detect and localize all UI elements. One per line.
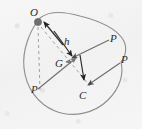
label-C: C — [79, 90, 86, 101]
label-O: O — [30, 7, 38, 18]
arrowhead-at-G — [66, 61, 74, 62]
label-P-lower-right: P — [121, 54, 128, 65]
pressure-force-line-upper-right — [72, 40, 109, 58]
pivot-point-marker-O — [34, 18, 41, 25]
label-P-lower-left: P — [31, 84, 38, 95]
label-P-upper-right: P — [110, 33, 117, 44]
label-h: h — [64, 36, 70, 47]
label-G: G — [55, 58, 63, 69]
dashed-vertical-line — [38, 27, 40, 90]
pressure-force-line-lower-right — [88, 63, 120, 85]
mechanics-diagram: O h G C P P P — [0, 0, 142, 129]
